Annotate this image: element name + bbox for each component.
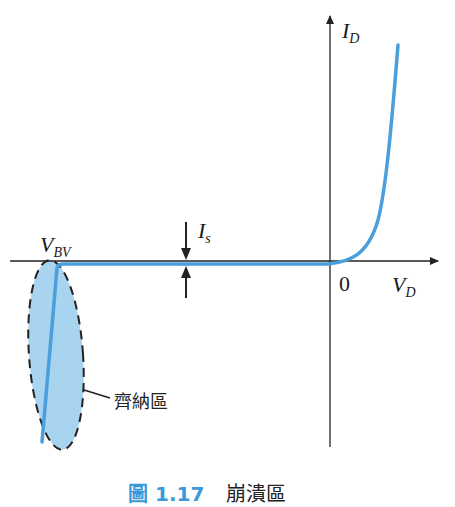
- caption-text: 崩潰區: [226, 482, 286, 506]
- saturation-current-indicator: [181, 222, 191, 298]
- iv-curve: [42, 45, 398, 442]
- y-axis-label: ID: [342, 20, 359, 46]
- figure-caption: 圖 1.17崩潰區: [128, 478, 286, 507]
- zener-region-label: 齊納區: [114, 387, 168, 413]
- breakdown-voltage-label: VBV: [40, 234, 71, 260]
- zener-leader-line: [84, 390, 110, 398]
- saturation-current-label: Is: [198, 220, 211, 246]
- x-axis-label: VD: [392, 274, 416, 300]
- figure-number: 圖 1.17: [128, 482, 204, 506]
- origin-label: 0: [339, 273, 350, 295]
